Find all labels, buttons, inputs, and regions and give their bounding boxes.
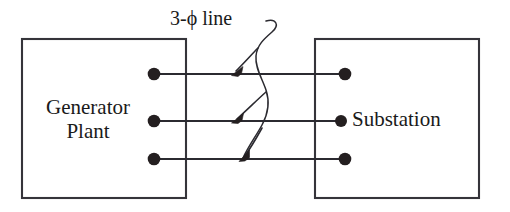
diagram-canvas: 3-ϕ line Generator Plant Substation	[0, 0, 510, 212]
generator-plant-box	[22, 39, 186, 198]
leader-branch-phase-a	[236, 48, 258, 71]
gen-terminal-b-dot	[148, 115, 161, 128]
leader-spine	[243, 20, 276, 158]
gen-terminal-c-dot	[148, 153, 161, 166]
sub-terminal-a-dot	[339, 68, 352, 81]
sub-terminal-b-dot	[335, 115, 347, 127]
gen-terminal-a-dot	[148, 68, 161, 81]
sub-terminal-c-dot	[339, 153, 352, 166]
diagram-graphics	[0, 0, 510, 212]
